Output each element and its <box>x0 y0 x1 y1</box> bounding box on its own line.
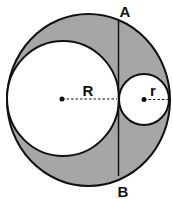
big-center-dot <box>60 97 65 102</box>
label-a: A <box>120 3 131 20</box>
label-b: B <box>118 183 129 199</box>
geometry-diagram: A B R r <box>0 0 173 199</box>
label-small-radius: r <box>150 82 156 99</box>
label-big-radius: R <box>83 82 94 99</box>
small-center-dot <box>142 97 147 102</box>
